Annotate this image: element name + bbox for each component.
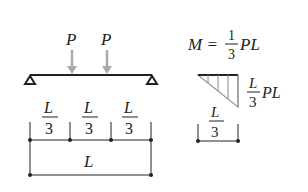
svg-text:M =: M = [187, 35, 218, 54]
diagram-canvas: P P L 3 L 3 L 3 L M = 1 3 PL [0, 0, 308, 192]
dimension-dot [236, 139, 240, 143]
svg-text:PL: PL [239, 35, 260, 54]
total-length-label: L [83, 152, 93, 171]
moment-span-label: L 3 [209, 104, 224, 140]
svg-text:3: 3 [249, 94, 257, 110]
left-support-icon [25, 76, 35, 84]
load-label-1: P [65, 30, 76, 49]
svg-text:3: 3 [125, 120, 133, 137]
moment-triangle [198, 75, 238, 107]
segment-label-3: L 3 [122, 99, 138, 137]
segment-label-2: L 3 [82, 99, 98, 137]
moment-equation: M = 1 3 PL [187, 28, 260, 62]
svg-text:3: 3 [228, 47, 235, 62]
right-support-icon [147, 76, 157, 84]
svg-text:L: L [210, 104, 219, 120]
svg-text:L: L [83, 99, 93, 116]
svg-text:PL: PL [261, 84, 281, 101]
load-arrow-1 [67, 50, 77, 74]
svg-text:L: L [123, 99, 133, 116]
load-label-2: P [100, 30, 111, 49]
svg-text:1: 1 [228, 28, 235, 43]
svg-text:3: 3 [45, 120, 53, 137]
peak-moment-label: L 3 PL [247, 75, 281, 110]
dimension-dot [196, 139, 200, 143]
svg-text:3: 3 [211, 124, 219, 140]
svg-text:3: 3 [85, 120, 93, 137]
segment-label-1: L 3 [42, 99, 58, 137]
load-arrow-2 [102, 50, 112, 74]
svg-text:L: L [248, 75, 257, 91]
svg-text:L: L [43, 99, 53, 116]
